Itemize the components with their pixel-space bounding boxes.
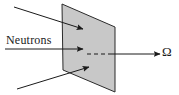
incident-beam-label: Neutrons	[6, 34, 52, 46]
neutron-scattering-figure: Neutrons Ω	[0, 0, 179, 95]
solid-angle-label: Ω	[162, 45, 172, 58]
figure-canvas	[0, 0, 179, 95]
target-plane	[62, 4, 115, 92]
incident-arrow-bottom	[17, 67, 89, 89]
